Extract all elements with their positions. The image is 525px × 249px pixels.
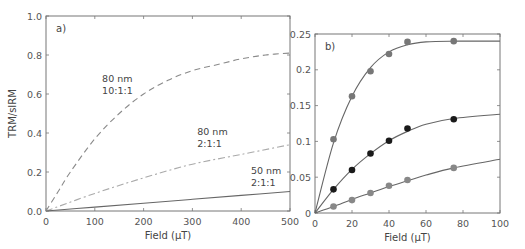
x-tick-label: 40 <box>383 218 395 229</box>
x-tick-label: 100 <box>86 216 104 227</box>
y-tick-label: 0.15 <box>290 100 311 111</box>
data-point <box>450 116 457 123</box>
data-point <box>330 203 337 210</box>
y-tick-label: 0.05 <box>290 172 311 183</box>
data-point <box>404 177 411 184</box>
data-point <box>450 38 457 45</box>
x-tick-label: 80 <box>457 218 469 229</box>
panel-b-chart: 02040608010000.050.10.150.20.25Field (μT… <box>290 29 509 244</box>
data-point <box>367 68 374 75</box>
curve-annotation: 50 nm2:1:1 <box>251 165 281 188</box>
y-tick-label: 0.2 <box>296 64 311 75</box>
x-tick-label: 300 <box>183 216 201 227</box>
y-tick-label: 0.2 <box>27 167 42 178</box>
data-point <box>349 93 356 100</box>
y-tick-label: 0.0 <box>27 206 42 217</box>
data-point <box>330 186 337 193</box>
series-curve <box>315 159 500 213</box>
data-point <box>367 190 374 197</box>
x-tick-label: 0 <box>43 216 49 227</box>
y-tick-label: 0 <box>305 208 311 219</box>
series-curve <box>46 192 290 212</box>
data-point <box>330 136 337 143</box>
data-point <box>386 51 393 58</box>
data-point <box>450 165 457 172</box>
curve-annotation: 80 nm10:1:1 <box>102 73 133 96</box>
y-tick-label: 0.25 <box>290 29 311 40</box>
y-axis-label: TRM/sIRM <box>7 89 18 139</box>
x-tick-label: 200 <box>135 216 153 227</box>
data-point <box>404 125 411 132</box>
panel-label: a) <box>56 23 66 34</box>
data-point <box>349 197 356 204</box>
x-axis-label: Field (μT) <box>145 230 192 241</box>
y-tick-label: 0.8 <box>27 50 42 61</box>
plot-frame <box>315 34 500 213</box>
x-tick-label: 60 <box>420 218 432 229</box>
y-tick-label: 0.1 <box>296 136 311 147</box>
data-point <box>386 137 393 144</box>
x-tick-label: 100 <box>491 218 509 229</box>
curve-annotation: 80 nm2:1:1 <box>197 126 227 149</box>
data-point <box>367 150 374 157</box>
x-tick-label: 400 <box>232 216 250 227</box>
data-point <box>404 39 411 46</box>
x-tick-label: 500 <box>281 216 299 227</box>
figure: 01002003004005000.00.20.40.60.81.0Field … <box>0 0 525 249</box>
x-tick-label: 0 <box>312 218 318 229</box>
y-tick-label: 0.6 <box>27 89 42 100</box>
y-tick-label: 0.4 <box>27 128 42 139</box>
panel-a-chart: 01002003004005000.00.20.40.60.81.0Field … <box>7 11 299 242</box>
panel-label: b) <box>325 41 335 52</box>
y-tick-label: 1.0 <box>27 11 42 22</box>
x-axis-label: Field (μT) <box>384 232 431 243</box>
x-tick-label: 20 <box>346 218 358 229</box>
data-point <box>386 182 393 189</box>
data-point <box>349 167 356 174</box>
